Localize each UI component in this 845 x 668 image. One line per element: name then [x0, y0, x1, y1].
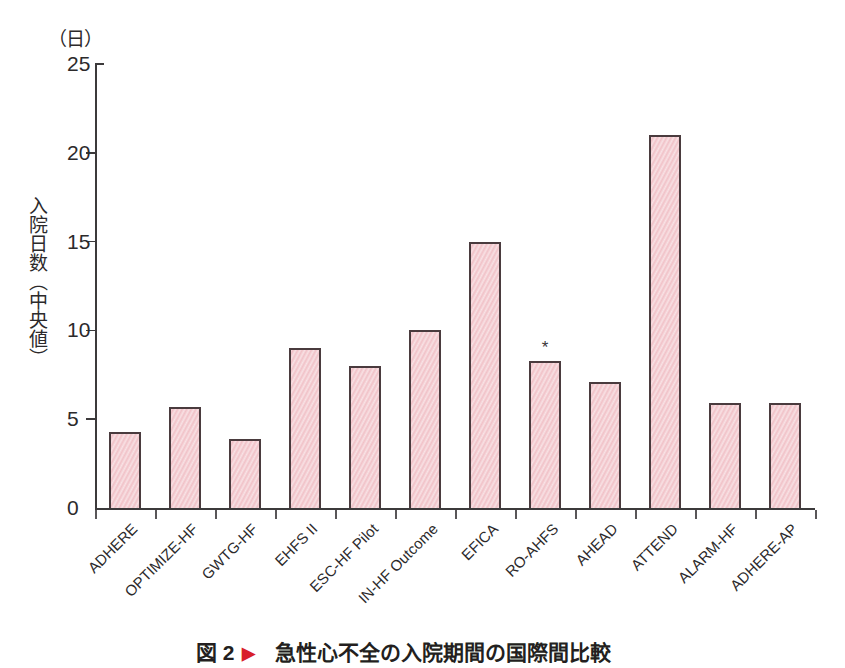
x-axis-label: RO-AHFS [501, 520, 561, 580]
y-tick-mark [86, 418, 95, 420]
x-axis-label: EFICA [458, 520, 501, 563]
bar [169, 407, 201, 508]
x-tick-mark [635, 510, 637, 519]
y-axis-unit-label: （日） [48, 24, 102, 51]
figure-container: （日） 入院日数（中央値） 0510152025 * ADHEREOPTIMIZ… [0, 0, 845, 668]
bar [289, 348, 321, 508]
caption-triangle-icon: ▶ [242, 643, 255, 664]
bar [589, 382, 621, 508]
y-axis-title: 入院日数（中央値） [16, 196, 46, 367]
figure-caption: 図 2 ▶ 急性心不全の入院期間の国際間比較 [196, 636, 611, 666]
y-tick-label: 15 [67, 230, 81, 254]
x-tick-mark [155, 510, 157, 519]
plot-area: 0510152025 * [95, 64, 815, 510]
y-tick-label: 20 [67, 141, 81, 165]
x-tick-mark [755, 510, 757, 519]
bar [349, 366, 381, 508]
y-tick-mark [95, 63, 104, 65]
bar [109, 432, 141, 508]
x-tick-mark [95, 510, 97, 519]
bar [709, 403, 741, 508]
y-tick-label: 5 [67, 407, 81, 431]
x-axis-label: ADHERE [85, 520, 141, 576]
x-axis-label: AHEAD [572, 520, 621, 569]
x-tick-mark [275, 510, 277, 519]
bar [229, 439, 261, 508]
bar [409, 330, 441, 508]
x-tick-mark [455, 510, 457, 519]
y-tick-label: 25 [67, 52, 81, 76]
x-tick-mark [215, 510, 217, 519]
x-tick-mark [395, 510, 397, 519]
y-axis-line [95, 64, 97, 510]
x-tick-mark [695, 510, 697, 519]
y-tick-label: 0 [67, 496, 81, 520]
bar-annotation-asterisk: * [542, 339, 549, 356]
x-tick-mark [815, 510, 817, 519]
x-axis-label: EHFS II [272, 520, 321, 569]
x-axis-label: GWTG-HF [198, 520, 261, 583]
x-axis-label: ATTEND [627, 520, 681, 574]
bar [529, 361, 561, 508]
bar [649, 135, 681, 508]
bar [769, 403, 801, 508]
y-tick-label: 10 [67, 318, 81, 342]
x-tick-mark [515, 510, 517, 519]
bar [469, 242, 501, 508]
figure-number: 図 2 [196, 636, 235, 666]
caption-title: 急性心不全の入院期間の国際間比較 [275, 636, 611, 666]
x-tick-mark [335, 510, 337, 519]
x-tick-mark [575, 510, 577, 519]
